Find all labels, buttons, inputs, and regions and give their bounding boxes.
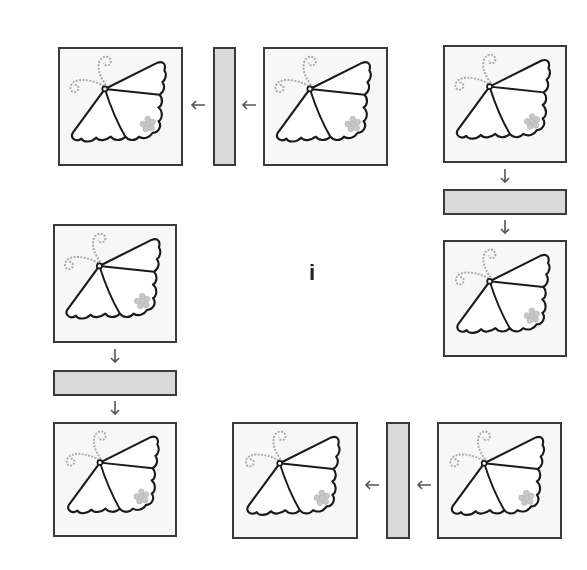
mirror-bar-top-vertical	[213, 47, 236, 166]
mirror-bar-left-horizontal	[53, 370, 177, 396]
butterfly-icon	[439, 424, 560, 537]
butterfly-tile-top-left-reflected	[58, 47, 183, 166]
butterfly-tile-bottom-reflected	[232, 422, 358, 539]
arrow-left-icon	[190, 100, 206, 110]
butterfly-tile-right-source	[443, 45, 567, 163]
butterfly-icon	[55, 424, 175, 535]
arrow-down-icon	[110, 348, 120, 364]
mirror-bar-bottom-vertical	[386, 422, 410, 539]
mirror-bar-right-horizontal	[443, 189, 567, 215]
butterfly-tile-left-reflected	[53, 422, 177, 537]
figure-label: i	[309, 262, 315, 284]
butterfly-icon	[445, 242, 565, 355]
butterfly-icon	[234, 424, 356, 537]
butterfly-icon	[265, 49, 386, 164]
butterfly-tile-top-left-source	[263, 47, 388, 166]
arrow-down-icon	[500, 219, 510, 235]
arrow-down-icon	[500, 168, 510, 184]
arrow-left-icon	[241, 100, 257, 110]
arrow-left-icon	[416, 480, 432, 490]
butterfly-tile-left-source	[53, 224, 177, 343]
arrow-left-icon	[364, 480, 380, 490]
butterfly-icon	[55, 226, 175, 341]
butterfly-tile-right-reflected	[443, 240, 567, 357]
butterfly-icon	[60, 49, 181, 164]
butterfly-tile-bottom-source	[437, 422, 562, 539]
arrow-down-icon	[110, 400, 120, 416]
butterfly-icon	[445, 47, 565, 161]
